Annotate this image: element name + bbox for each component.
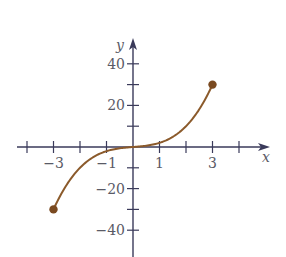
y-tick-label: −40 (95, 222, 125, 238)
x-tick-label: 1 (155, 155, 164, 171)
x-tick-label: 3 (208, 155, 217, 171)
y-tick-label: 40 (107, 56, 125, 72)
y-tick-label: 20 (107, 97, 125, 113)
y-tick-label: −20 (95, 181, 125, 197)
x-tick-label: −1 (96, 155, 117, 171)
endpoint-dot (49, 205, 57, 213)
axes (17, 38, 270, 257)
x-axis-label: x (262, 149, 270, 165)
x-tick-label: −3 (43, 155, 64, 171)
cubic-function-graph: −3−1134020−20−40 x y (0, 0, 286, 257)
endpoint-dot (208, 80, 216, 88)
y-axis-label: y (115, 37, 125, 53)
